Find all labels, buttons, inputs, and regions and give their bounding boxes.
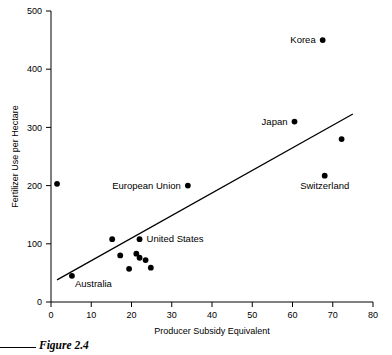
y-tick-label: 500 <box>27 6 42 16</box>
data-point <box>137 255 143 261</box>
x-tick-label: 0 <box>48 310 53 320</box>
point-label: Australia <box>75 278 113 289</box>
axis-spines <box>51 11 373 302</box>
data-point <box>322 173 328 179</box>
data-point <box>117 253 123 259</box>
x-tick-label: 60 <box>287 310 297 320</box>
data-point <box>143 257 149 263</box>
scatter-plot: 010020030040050001020304050607080 Austra… <box>0 0 392 355</box>
data-point <box>126 266 132 272</box>
x-tick-label: 70 <box>328 310 338 320</box>
y-axis-title: Fertilizer Use per Hectare <box>10 105 20 208</box>
caption-rule <box>0 347 36 348</box>
data-point <box>109 236 115 242</box>
trend-line <box>57 114 353 280</box>
point-label: Korea <box>290 34 316 45</box>
point-label: Japan <box>262 116 288 127</box>
data-point <box>339 136 345 142</box>
regression-line <box>57 114 353 280</box>
y-tick-label: 300 <box>27 123 42 133</box>
point-label: United States <box>147 233 204 244</box>
data-point <box>137 236 143 242</box>
y-tick-label: 400 <box>27 64 42 74</box>
y-tick-label: 0 <box>37 297 42 307</box>
figure-caption: Figure 2.4 <box>0 343 392 355</box>
point-label: Switzerland <box>300 180 349 191</box>
x-tick-label: 10 <box>86 310 96 320</box>
plot-axes <box>51 11 373 302</box>
x-tick-label: 20 <box>126 310 136 320</box>
data-point <box>148 265 154 271</box>
x-tick-label: 80 <box>368 310 378 320</box>
point-label: European Union <box>112 180 181 191</box>
data-point-labels: AustraliaUnited StatesEuropean UnionJapa… <box>75 34 349 289</box>
axis-tick-labels: 010020030040050001020304050607080 <box>27 6 378 320</box>
y-tick-label: 100 <box>27 239 42 249</box>
x-axis-title: Producer Subsidy Equivalent <box>154 326 270 336</box>
data-point <box>54 181 60 187</box>
data-point <box>292 119 298 125</box>
data-point <box>185 183 191 189</box>
x-tick-label: 30 <box>167 310 177 320</box>
caption-label: Figure 2.4 <box>39 339 89 351</box>
x-tick-label: 50 <box>247 310 257 320</box>
axis-titles: Producer Subsidy EquivalentFertilizer Us… <box>10 105 270 336</box>
data-point <box>320 37 326 43</box>
axis-ticks <box>46 11 373 307</box>
y-tick-label: 200 <box>27 181 42 191</box>
figure-container: 010020030040050001020304050607080 Austra… <box>0 0 392 355</box>
x-tick-label: 40 <box>207 310 217 320</box>
